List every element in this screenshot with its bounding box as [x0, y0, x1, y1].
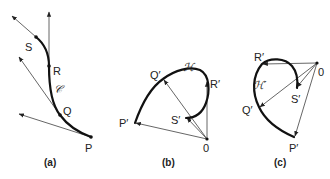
tangent-arrow-s: [12, 16, 36, 37]
caption-b: (b): [162, 157, 175, 168]
label-s: S: [25, 41, 32, 53]
label-s-prime: S′: [291, 93, 300, 105]
vector-q-prime: [260, 63, 317, 107]
point-q: [58, 113, 62, 117]
vector-s-prime: [297, 63, 317, 87]
vector-s-prime: [187, 118, 207, 139]
label-r-prime: R′: [210, 78, 220, 90]
label-origin: 0: [203, 142, 209, 154]
label-p-prime: P′: [119, 117, 128, 129]
panel-c: R′ ℋ′ Q′ S′ P′ 0 (c): [242, 51, 324, 168]
label-origin: 0: [318, 66, 324, 78]
caption-c: (c): [274, 157, 286, 168]
point-r: [47, 64, 51, 68]
panel-a: S R 𝒞 Q P (a): [12, 12, 93, 168]
label-q-prime: Q′: [242, 104, 253, 116]
caption-a: (a): [44, 157, 56, 168]
panel-b: P′ Q′ ℋ R′ S′ 0 (b): [119, 61, 220, 168]
origin-point: [205, 137, 208, 140]
label-r: R: [53, 65, 61, 77]
label-q: Q: [63, 105, 72, 117]
point-p: [89, 135, 93, 139]
label-curve-h-prime: ℋ′: [253, 79, 267, 92]
vector-q-prime: [164, 80, 207, 139]
origin-point: [315, 61, 318, 64]
hodograph-figure: S R 𝒞 Q P (a) P′ Q′ ℋ R′ S′ 0 (b) R′ ℋ′ …: [0, 0, 330, 179]
label-r-prime: R′: [254, 51, 264, 63]
label-curve-c: 𝒞: [54, 83, 65, 96]
point-s: [34, 35, 38, 39]
label-q-prime: Q′: [150, 69, 161, 81]
label-p: P: [85, 142, 92, 154]
tangent-arrow-p: [19, 114, 91, 137]
label-p-prime: P′: [289, 142, 298, 154]
label-s-prime: S′: [171, 114, 180, 126]
